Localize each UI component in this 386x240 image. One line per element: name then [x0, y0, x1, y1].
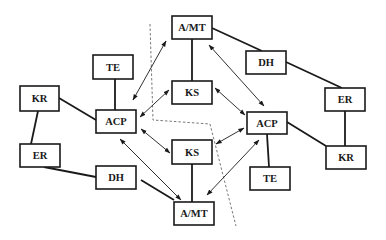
node-ks-bottom: KS: [172, 140, 212, 164]
node-amt-bottom: A/MT: [174, 202, 214, 225]
node-acp-left: ACP: [96, 110, 136, 133]
node-label: ER: [33, 150, 48, 161]
node-label: ER: [338, 94, 353, 105]
link-kr-left-acp-left: [59, 98, 96, 120]
arrow-acp-left-ks-top: [140, 90, 169, 117]
node-label: ACP: [256, 118, 278, 129]
node-label: KS: [185, 87, 199, 98]
node-te-right: TE: [250, 167, 290, 190]
node-label: A/MT: [178, 22, 205, 33]
arrow-ks-top-acp-right: [215, 88, 245, 115]
node-label: A/MT: [180, 208, 207, 219]
node-te-left: TE: [93, 55, 133, 79]
node-kr-left: KR: [20, 86, 59, 111]
diagram-canvas: A/MT TE DH KR KS ER ACP ACP KS ER KR: [0, 0, 386, 240]
node-label: TE: [263, 173, 277, 184]
arrow-acp-left-amt-top: [133, 41, 166, 100]
node-er-left: ER: [20, 144, 60, 167]
node-label: KS: [185, 147, 199, 158]
node-amt-top: A/MT: [172, 16, 212, 39]
node-dh-left: DH: [96, 166, 136, 189]
node-label: DH: [258, 57, 274, 68]
link-dh-left-amt-bottom: [141, 180, 174, 200]
node-label: KR: [32, 93, 48, 104]
link-er-left-dh-left: [44, 167, 96, 177]
node-label: DH: [108, 172, 124, 183]
node-label: TE: [106, 62, 120, 73]
node-kr-right: KR: [326, 146, 366, 169]
node-ks-top: KS: [172, 81, 212, 104]
node-label: KR: [338, 152, 354, 163]
link-amt-top-dh-right: [212, 28, 262, 51]
link-dh-right-er-right: [286, 62, 342, 88]
node-dh-right: DH: [246, 51, 286, 74]
node-er-right: ER: [325, 88, 365, 111]
node-acp-right: ACP: [247, 112, 287, 134]
link-kr-left-er-left: [31, 111, 38, 144]
link-acp-right-te-right: [267, 134, 269, 167]
node-label: ACP: [105, 116, 127, 127]
arrow-acp-left-ks-bottom: [141, 129, 170, 153]
solid-links: [31, 28, 345, 202]
link-kr-right-acp-right: [287, 122, 326, 146]
domain-boundary-dashed-line: [150, 24, 236, 226]
arrow-ks-bottom-acp-right: [216, 128, 244, 144]
